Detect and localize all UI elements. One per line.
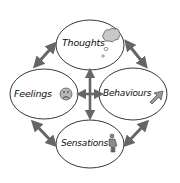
arrow-feelings-sensations <box>35 124 53 143</box>
arrow-thoughts-feelings <box>37 46 53 64</box>
cbt-cycle-diagram: Thoughts Feelings Behaviours Sensations <box>0 0 180 183</box>
node-label-sensations: Sensations <box>61 138 108 148</box>
arrow-behaviours-sensations <box>127 124 145 143</box>
node-label-feelings: Feelings <box>14 88 52 99</box>
arrow-thoughts-behaviours <box>128 44 144 64</box>
sad-face-icon <box>60 88 72 100</box>
node-label-thoughts: Thoughts <box>62 37 105 48</box>
node-label-behaviours: Behaviours <box>103 88 151 98</box>
